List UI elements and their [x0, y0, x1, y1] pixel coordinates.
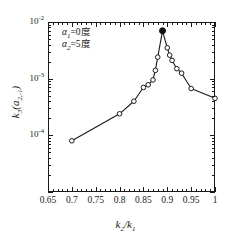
y-tick-minor-right — [212, 96, 215, 97]
data-point — [170, 58, 175, 63]
y-tick-minor — [48, 81, 51, 82]
x-tick-minor-top — [139, 22, 140, 25]
y-tick-major — [48, 79, 53, 80]
x-tick-major — [191, 187, 192, 192]
y-tick-label-base: 10 — [30, 129, 39, 139]
x-tick-minor-top — [158, 22, 159, 25]
x-tick-minor — [124, 189, 125, 192]
x-tick-major — [120, 187, 121, 192]
alpha-1-value: =0度 — [71, 27, 91, 37]
x-tick-minor-top — [182, 22, 183, 25]
x-axis-numerator: k2 — [116, 218, 124, 230]
x-tick-minor-top — [177, 22, 178, 25]
x-tick-minor — [196, 189, 197, 192]
x-tick-minor-top — [124, 22, 125, 25]
x-tick-minor-top — [201, 22, 202, 25]
y-tick-minor-right — [212, 141, 215, 142]
y-tick-major — [48, 22, 53, 23]
x-tick-minor — [62, 189, 63, 192]
x-tick-minor-top — [148, 22, 149, 25]
y-tick-minor-right — [212, 175, 215, 176]
y-tick-minor-right — [212, 108, 215, 109]
y-tick-minor — [48, 52, 51, 53]
y-tick-minor — [48, 96, 51, 97]
x-tick-minor — [158, 189, 159, 192]
y-tick-minor-right — [212, 138, 215, 139]
x-tick-minor — [58, 189, 59, 192]
y-tick-major — [48, 192, 53, 193]
y-tick-minor-right — [212, 91, 215, 92]
y-tick-minor-right — [212, 101, 215, 102]
x-tick-minor-top — [196, 22, 197, 25]
y-tick-minor-right — [212, 152, 215, 153]
x-tick-major — [72, 187, 73, 192]
x-tick-minor-top — [153, 22, 154, 25]
x-tick-minor-top — [129, 22, 130, 25]
data-point — [132, 99, 137, 104]
data-point-peak — [160, 28, 166, 34]
x-tick-minor-top — [62, 22, 63, 25]
x-tick-minor-top — [81, 22, 82, 25]
y-tick-minor — [48, 144, 51, 145]
x-axis-denominator: k1 — [127, 218, 135, 230]
y-tick-minor-right — [212, 27, 215, 28]
y-tick-minor-right — [212, 31, 215, 32]
x-tick-major-top — [143, 22, 144, 27]
y-tick-minor-right — [212, 52, 215, 53]
y-tick-minor — [48, 138, 51, 139]
y-tick-minor-right — [212, 118, 215, 119]
x-tick-minor — [172, 189, 173, 192]
y-tick-minor — [48, 165, 51, 166]
plot-annotation: α1=0度 α2=5度 — [62, 27, 91, 50]
data-point — [179, 71, 184, 76]
data-point — [146, 82, 151, 87]
x-tick-minor-top — [186, 22, 187, 25]
y-tick-major-right — [210, 22, 215, 23]
y-tick-minor — [48, 101, 51, 102]
x-tick-major — [96, 187, 97, 192]
y-tick-label-base: 10 — [30, 73, 39, 83]
y-tick-label-exponent: -2 — [39, 14, 44, 21]
y-tick-minor — [48, 91, 51, 92]
data-point — [189, 86, 194, 91]
y-tick-minor — [48, 148, 51, 149]
x-tick-minor — [115, 189, 116, 192]
x-tick-minor — [205, 189, 206, 192]
x-tick-minor — [182, 189, 183, 192]
y-tick-minor — [48, 62, 51, 63]
x-tick-minor — [148, 189, 149, 192]
x-tick-minor — [77, 189, 78, 192]
x-tick-minor — [186, 189, 187, 192]
data-point — [141, 85, 146, 90]
data-point — [175, 66, 180, 71]
y-tick-minor — [48, 27, 51, 28]
data-point — [165, 46, 170, 51]
y-tick-minor-right — [212, 39, 215, 40]
y-tick-minor-right — [212, 62, 215, 63]
x-tick-minor — [129, 189, 130, 192]
x-tick-major-top — [167, 22, 168, 27]
data-point — [70, 139, 75, 144]
y-tick-major-right — [210, 192, 215, 193]
x-tick-minor — [163, 189, 164, 192]
x-tick-major-top — [191, 22, 192, 27]
y-tick-minor-right — [212, 158, 215, 159]
x-tick-minor-top — [100, 22, 101, 25]
y-tick-minor — [48, 84, 51, 85]
y-tick-minor — [48, 31, 51, 32]
y-tick-minor — [48, 152, 51, 153]
data-point — [151, 78, 156, 83]
y-tick-minor — [48, 118, 51, 119]
y-tick-minor — [48, 35, 51, 36]
x-tick-minor — [100, 189, 101, 192]
x-tick-major — [215, 187, 216, 192]
x-tick-minor-top — [163, 22, 164, 25]
x-tick-minor-top — [86, 22, 87, 25]
x-tick-minor-top — [110, 22, 111, 25]
x-tick-minor-top — [172, 22, 173, 25]
x-tick-major-top — [120, 22, 121, 27]
x-tick-minor-top — [205, 22, 206, 25]
x-tick-minor — [153, 189, 154, 192]
y-tick-major — [48, 135, 53, 136]
y-tick-minor-right — [212, 144, 215, 145]
